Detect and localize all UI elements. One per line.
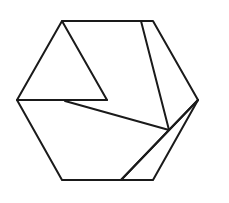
hexagon-dissection-diagram bbox=[0, 0, 229, 203]
segment-line bbox=[141, 21, 169, 130]
diagram-svg bbox=[0, 0, 229, 203]
segment-line bbox=[62, 21, 107, 100]
segment-line bbox=[65, 101, 169, 130]
inner-segments bbox=[17, 21, 198, 180]
